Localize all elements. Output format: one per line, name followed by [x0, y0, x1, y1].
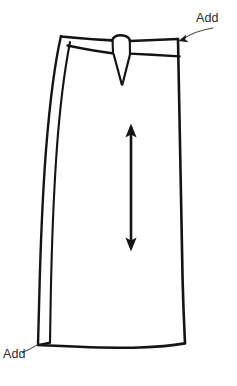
- sketch-canvas: Add Add: [0, 0, 237, 386]
- leader-curve-waistband: [183, 28, 214, 39]
- waistband: [61, 35, 180, 56]
- left-outer-side-seam-line: [38, 36, 61, 345]
- annotation-label-add-hem: Add: [3, 348, 26, 361]
- waistband-bottom-edge-right: [130, 54, 180, 57]
- leader-line-waistband: [179, 28, 213, 42]
- annotation-label-add-waistband: Add: [196, 12, 219, 25]
- right-side-seam-line: [178, 39, 185, 343]
- grainline-arrow: [125, 124, 136, 252]
- waistband-top-edge-right: [130, 39, 178, 41]
- center-front-dart: [114, 54, 130, 85]
- waistband-bottom-edge-left: [68, 46, 113, 54]
- dart-right-leg: [122, 54, 130, 84]
- dart-left-leg: [114, 54, 122, 85]
- skirt-technical-drawing: [0, 0, 237, 386]
- hem-line: [38, 343, 185, 347]
- waistband-center-tab: [112, 35, 130, 41]
- garment-outline: [38, 36, 185, 348]
- waistband-top-edge-left: [61, 37, 112, 41]
- leader-arrowhead-waistband: [179, 35, 189, 43]
